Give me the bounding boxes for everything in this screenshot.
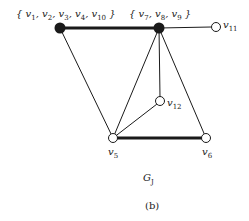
node-v6 [202,134,211,143]
edge-B-v5 [113,28,159,138]
label-v6: v6 [202,146,212,160]
node-A [55,23,66,34]
label-node-A: { v1, v2, v3, v4, v10 } [16,8,116,22]
edge-B-v6 [159,28,206,138]
graph-caption: GJ [143,172,154,186]
graph-canvas [0,0,249,221]
node-v5 [109,134,118,143]
node-B [154,23,165,34]
panel-label: (b) [145,200,159,211]
edge-B-v11 [159,27,211,28]
node-v12 [156,97,165,106]
label-node-B: { v7, v8, v9 } [129,8,191,22]
label-v12: v12 [167,97,182,111]
edge-A-v5 [60,28,113,138]
edge-B-v12 [159,28,160,97]
node-v11 [212,23,221,32]
label-v11: v11 [223,19,238,33]
label-v5: v5 [108,146,118,160]
